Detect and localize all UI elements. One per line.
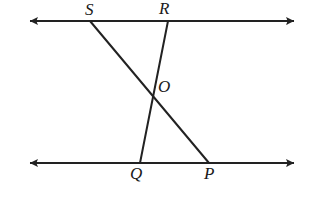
- vertex-label-o: O: [158, 78, 170, 95]
- vertex-label-s: S: [85, 1, 94, 18]
- vertex-label-p: P: [204, 165, 214, 182]
- vertex-label-q: Q: [130, 165, 142, 182]
- geometry-canvas: [0, 0, 311, 201]
- vertex-label-r: R: [159, 0, 169, 17]
- transversal-segment-sp: [90, 21, 209, 163]
- geometry-figure: S R O Q P: [0, 0, 311, 201]
